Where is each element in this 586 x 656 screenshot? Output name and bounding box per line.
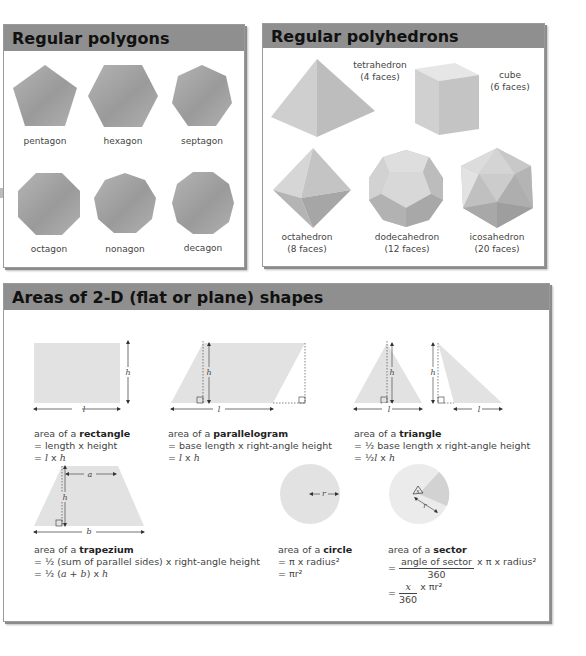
hexagon-shape [86, 63, 160, 129]
areas-panel: Areas of 2-D (flat or plane) shapes h l … [3, 283, 550, 622]
tetrahedron-label: tetrahedron (4 faces) [345, 59, 415, 83]
sector-frac1-den: 360 [399, 569, 474, 581]
rectangle-h-label: h [125, 368, 130, 377]
parallelogram-line2-eq: = [168, 452, 179, 463]
circle-name: circle [323, 544, 352, 555]
icosahedron-name: icosahedron [470, 232, 525, 242]
sector-prefix: area of a [388, 544, 433, 555]
hexagon-label: hexagon [86, 135, 160, 147]
icosahedron-label: icosahedron (20 faces) [459, 231, 535, 255]
triangle-formula: area of a triangle = ½ base length x rig… [354, 428, 544, 464]
rectangle-line2-eq: = [34, 452, 45, 463]
parallelogram-name: parallelogram [213, 428, 288, 439]
sector-frac2-num: x [399, 581, 417, 594]
icosahedron-faces: (20 faces) [474, 244, 519, 254]
parallelogram-prefix: area of a [168, 428, 213, 439]
sector-diagram: x r [387, 462, 451, 526]
tetrahedron-faces: (4 faces) [360, 72, 399, 82]
circle-formula: area of a circle = π x radius² = πr² [278, 544, 378, 580]
octahedron-name: octahedron [281, 232, 332, 242]
parallelogram-var-h: h [194, 452, 200, 463]
triangle-prefix: area of a [354, 428, 399, 439]
triangle-diagram: h h [352, 339, 512, 411]
trapezium-line2-eq: = ½ ( [34, 568, 61, 579]
pentagon-shape [10, 63, 80, 129]
sector-fraction-1: angle of sector360 [399, 556, 474, 581]
octahedron-label: octahedron (8 faces) [271, 231, 343, 255]
circle-line2: = πr² [278, 568, 302, 579]
triangle-name: triangle [399, 428, 441, 439]
sector-name: sector [433, 544, 466, 555]
septagon-shape [169, 63, 235, 129]
rectangle-name: rectangle [79, 428, 130, 439]
parallelogram-line1: = base length x right-angle height [168, 440, 332, 451]
septagon-label: septagon [169, 135, 235, 147]
tetrahedron-name: tetrahedron [353, 60, 406, 70]
cube-label: cube (6 faces) [483, 69, 537, 93]
trapezium-b-label: b [86, 527, 91, 536]
octagon-label: octagon [16, 243, 82, 255]
parallelogram-diagram: h [169, 339, 309, 411]
rectangle-line1: = length x height [34, 440, 117, 451]
octahedron-shape [271, 146, 353, 230]
triangle-line1: = ½ base length x right-angle height [354, 440, 530, 451]
pentagon-label: pentagon [10, 135, 80, 147]
dodecahedron-faces: (12 faces) [384, 244, 429, 254]
trapezium-a-label: a [88, 470, 93, 479]
regular-polyhedrons-title: Regular polyhedrons [263, 24, 544, 48]
sector-line1-post: x π x radius² [474, 556, 536, 567]
sector-line2-eq: = [388, 587, 399, 598]
rectangle-var-h: h [60, 452, 66, 463]
dodecahedron-label: dodecahedron (12 faces) [367, 231, 447, 255]
rectangle-times: x [48, 452, 60, 463]
octahedron-faces: (8 faces) [287, 244, 326, 254]
decagon-shape [170, 170, 236, 236]
rectangle-formula: area of a rectangle = length x height = … [34, 428, 174, 464]
triangle-line2-eq: = ½ [354, 452, 374, 463]
dodecahedron-name: dodecahedron [375, 232, 440, 242]
trapezium-formula: area of a trapezium = ½ (sum of parallel… [34, 544, 274, 580]
decagon-label: decagon [170, 242, 236, 254]
circle-prefix: area of a [278, 544, 323, 555]
trapezium-plus: + [67, 568, 81, 579]
sector-line2-post: x πr² [417, 581, 442, 592]
nonagon-shape [92, 171, 158, 237]
rectangle-diagram: h [32, 339, 142, 411]
parallelogram-l-label: l [214, 404, 224, 416]
trapezium-line1: = ½ (sum of parallel sides) x right-angl… [34, 556, 260, 567]
trapezium-name: trapezium [79, 544, 133, 555]
circle-line1: = π x radius² [278, 556, 340, 567]
cube-shape [413, 61, 481, 137]
triangle-l-label: l [384, 404, 394, 416]
areas-title: Areas of 2-D (flat or plane) shapes [4, 284, 549, 310]
sector-formula: area of a sector = angle of sector360 x … [388, 544, 548, 606]
parallelogram-h-label: h [206, 368, 211, 377]
sector-var-x: x [405, 581, 410, 592]
circle-diagram: r [278, 462, 342, 526]
sector-line1-eq: = [388, 562, 399, 573]
parallelogram-times: x [182, 452, 194, 463]
triangle2-h-label: h [430, 368, 435, 377]
trapezium-var-h: h [102, 568, 108, 579]
cube-faces: (6 faces) [490, 82, 529, 92]
cube-name: cube [499, 70, 521, 80]
trapezium-h-label: h [62, 493, 67, 502]
trapezium-times: ) x [87, 568, 102, 579]
triangle-h-label: h [389, 368, 394, 377]
regular-polygons-title: Regular polygons [4, 25, 244, 51]
regular-polygons-panel: Regular polygons pentagon hexagon septag… [3, 24, 245, 268]
rectangle-prefix: area of a [34, 428, 79, 439]
trapezium-diagram: h a b [32, 464, 152, 536]
octagon-shape [16, 171, 82, 237]
sector-fraction-2: x360 [399, 581, 417, 606]
sector-frac1-num: angle of sector [399, 556, 474, 569]
trapezium-prefix: area of a [34, 544, 79, 555]
triangle2-l-label: l [474, 404, 484, 416]
parallelogram-formula: area of a parallelogram = base length x … [168, 428, 358, 464]
rectangle-l-label: l [79, 404, 89, 416]
sector-frac2-den: 360 [399, 594, 417, 606]
nonagon-label: nonagon [92, 243, 158, 255]
regular-polyhedrons-panel: Regular polyhedrons tetrahedron (4 faces… [262, 23, 545, 267]
dodecahedron-shape [367, 148, 445, 228]
icosahedron-shape [459, 146, 535, 230]
